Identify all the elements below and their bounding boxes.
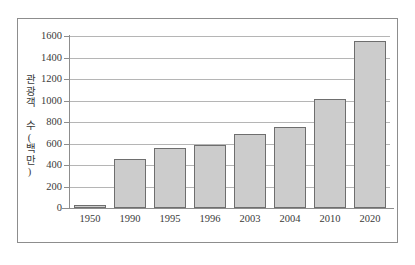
- y-tick-label: 600: [18, 139, 62, 149]
- y-tick-label: 1400: [18, 53, 62, 63]
- bar: [114, 159, 146, 208]
- y-tick-label-wrap: 400: [14, 165, 62, 166]
- gridline: [70, 58, 390, 59]
- x-tick-label: 1996: [190, 213, 230, 225]
- bar: [154, 148, 186, 208]
- y-tick-label-wrap: 1400: [14, 58, 62, 59]
- y-tick-label: 400: [18, 160, 62, 170]
- chart-figure: 관광객 수(백만) 02004006008001000120014001600 …: [0, 0, 415, 265]
- bar: [234, 134, 266, 208]
- y-tick-label-wrap: 0: [14, 208, 62, 209]
- x-tick-label: 1990: [110, 213, 150, 225]
- plot-area: [70, 36, 390, 208]
- y-tick-label: 1600: [18, 31, 62, 41]
- y-tick-label-wrap: 1600: [14, 36, 62, 37]
- y-tick-label: 800: [18, 117, 62, 127]
- y-tick-label-wrap: 1200: [14, 79, 62, 80]
- bar: [274, 127, 306, 208]
- x-tick-label: 2004: [270, 213, 310, 225]
- y-tick-label-wrap: 200: [14, 187, 62, 188]
- y-tick-mark: [64, 208, 70, 209]
- x-tick-label: 2020: [350, 213, 390, 225]
- y-tick-label: 1000: [18, 96, 62, 106]
- gridline: [70, 36, 390, 37]
- bar: [74, 205, 106, 208]
- bar: [194, 145, 226, 208]
- y-tick-label-wrap: 800: [14, 122, 62, 123]
- bar: [354, 41, 386, 208]
- y-tick-label: 0: [18, 203, 62, 213]
- y-tick-label: 1200: [18, 74, 62, 84]
- x-tick-label: 2003: [230, 213, 270, 225]
- x-tick-label: 1995: [150, 213, 190, 225]
- y-tick-label-wrap: 1000: [14, 101, 62, 102]
- y-tick-label-wrap: 600: [14, 144, 62, 145]
- x-axis-line: [62, 208, 394, 209]
- x-tick-label: 1950: [70, 213, 110, 225]
- gridline: [70, 79, 390, 80]
- y-tick-label: 200: [18, 182, 62, 192]
- bar: [314, 99, 346, 208]
- x-tick-label: 2010: [310, 213, 350, 225]
